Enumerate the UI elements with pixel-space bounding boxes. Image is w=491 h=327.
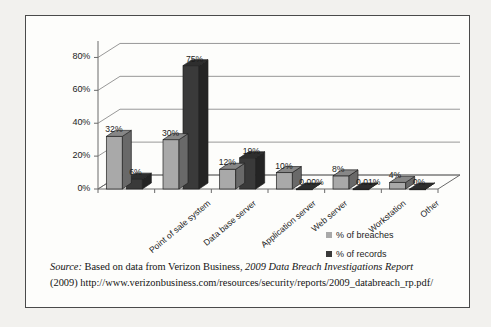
source-label: Source: bbox=[50, 261, 82, 272]
legend-label: % of breaches bbox=[336, 230, 394, 240]
bar-value-label: 30% bbox=[162, 128, 179, 138]
bars bbox=[106, 60, 434, 190]
legend-item: % of breaches bbox=[326, 230, 466, 240]
y-tick-label: 0% bbox=[56, 183, 90, 193]
bar-value-label: 0.01% bbox=[356, 177, 380, 187]
legend-swatch-icon bbox=[326, 232, 332, 238]
source-text: Based on data from Verizon Business, bbox=[85, 261, 243, 272]
chart-plot-area: 0%20%40%60%80% 32%6%30%75%12%19%10%0.00%… bbox=[26, 16, 470, 221]
source-url: http://www.verizonbusiness.com/resources… bbox=[80, 277, 433, 288]
legend-swatch-icon bbox=[326, 251, 332, 257]
bar-value-label: 0.00% bbox=[299, 177, 323, 187]
bar-value-label: 4% bbox=[389, 170, 401, 180]
y-tick-label: 20% bbox=[56, 150, 90, 160]
bar-value-label: 75% bbox=[186, 54, 203, 64]
figure-panel: 0%20%40%60%80% 32%6%30%75%12%19%10%0.00%… bbox=[25, 15, 470, 308]
bar-value-label: 6% bbox=[129, 167, 141, 177]
source-report-title: 2009 Data Breach Investigations Report bbox=[245, 261, 413, 272]
legend-item: % of records bbox=[326, 249, 466, 259]
chart-svg bbox=[26, 16, 470, 221]
legend-label: % of records bbox=[336, 249, 387, 259]
bar-value-label: 19% bbox=[243, 146, 260, 156]
source-note: Source: Based on data from Verizon Busin… bbox=[50, 259, 455, 291]
source-year: (2009) bbox=[50, 277, 78, 288]
bar-value-label: 10% bbox=[275, 161, 292, 171]
y-tick-label: 40% bbox=[56, 117, 90, 127]
bar-value-label: 12% bbox=[219, 157, 236, 167]
y-tick-label: 80% bbox=[56, 51, 90, 61]
bar-value-label: 32% bbox=[105, 124, 122, 134]
bar-value-label: 0% bbox=[413, 177, 425, 187]
y-tick-label: 60% bbox=[56, 84, 90, 94]
bar-value-label: 8% bbox=[332, 164, 344, 174]
